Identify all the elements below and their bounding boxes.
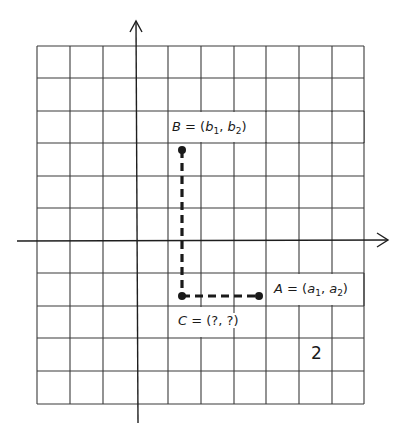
label-c: C = (?, ?)	[178, 313, 238, 328]
label-b-v2: b	[227, 119, 235, 134]
coordinate-plane	[0, 0, 412, 434]
label-c-eq: =	[191, 313, 202, 328]
label-a: A = (a1, a2)	[274, 281, 348, 298]
point-b	[178, 146, 186, 154]
label-b-eq: =	[185, 119, 196, 134]
figure-number: 2	[311, 343, 322, 363]
point-a	[255, 292, 263, 300]
label-c-coords: (?, ?)	[206, 313, 238, 328]
point-c	[178, 292, 186, 300]
label-a-close: )	[343, 281, 348, 296]
label-a-sep: ,	[321, 281, 325, 296]
label-a-v2: a	[329, 281, 337, 296]
label-a-v1: a	[307, 281, 315, 296]
label-b-close: )	[241, 119, 246, 134]
dashed-path	[182, 150, 259, 296]
label-c-name: C	[178, 313, 187, 328]
label-a-name: A	[274, 281, 283, 296]
label-b: B = (b1, b2)	[172, 119, 247, 136]
y-axis	[136, 21, 138, 423]
label-b-sep: ,	[219, 119, 223, 134]
label-a-eq: =	[287, 281, 298, 296]
label-b-name: B	[172, 119, 181, 134]
